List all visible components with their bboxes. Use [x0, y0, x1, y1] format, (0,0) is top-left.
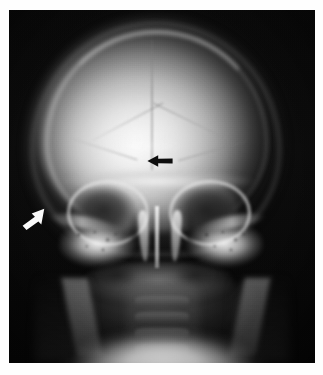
radiograph-image [9, 10, 315, 363]
cervical-vertebra [135, 296, 189, 307]
nasal-septum [155, 206, 159, 268]
vault-lucent-defect [105, 138, 191, 154]
radiograph-figure [0, 0, 323, 375]
